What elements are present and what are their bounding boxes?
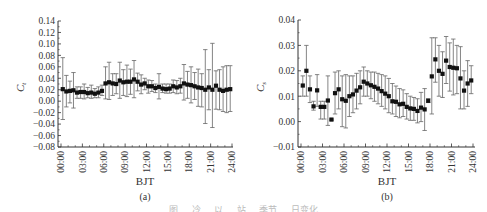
data-point-square [455,66,459,70]
y-axis-label-b: Cs [254,82,268,92]
y-tick-label: −0.06 [33,131,55,141]
data-point-square [351,92,355,96]
y-tick-label: −0.08 [33,142,55,152]
data-point-square [415,109,419,113]
data-point-square [390,99,394,103]
data-point-square [376,86,380,90]
y-tick-label: 0.10 [38,39,55,49]
data-point-square [315,88,319,92]
data-point-square [319,105,323,109]
chart-panel-a: 0.140.120.100.080.060.040.020.00−0.02−0.… [14,16,237,203]
x-tick-label: 03:00 [318,151,328,173]
y-tick-label: 0.04 [278,15,295,25]
errorbars-b [301,37,474,131]
x-axis-label-b: BJT [378,175,397,187]
x-tick-label: 18:00 [425,151,435,173]
data-point-square [394,100,398,104]
figure: 0.140.120.100.080.060.040.020.00−0.02−0.… [0,0,487,212]
y-tick-label: −0.02 [33,108,55,118]
data-point-square [458,76,462,80]
data-point-square [448,65,452,69]
data-point-square [423,107,427,111]
data-point-square [426,99,430,103]
data-point-square [440,72,444,76]
x-tick-label: 15:00 [404,151,414,173]
x-tick-label: 21:00 [447,151,457,173]
data-point-square [358,85,362,89]
x-tick-label: 12:00 [142,151,152,173]
axes-b [298,20,475,147]
data-point-square [451,66,455,70]
data-point-square [301,83,305,87]
data-point-square [372,85,376,89]
y-tick-label: −0.01 [273,142,295,152]
y-tick-label: 0.02 [278,66,295,76]
data-point-square [380,89,384,93]
data-point-square [408,106,412,110]
data-point-square [354,89,358,93]
y-tick-label: 0.01 [278,92,295,102]
data-point-square [333,91,337,95]
data-point-square [322,105,326,109]
data-point-square [430,74,434,78]
x-tick-label: 06:00 [99,151,109,173]
data-point-square [228,87,232,91]
data-point-square [466,81,470,85]
data-point-square [326,98,330,102]
data-point-square [308,87,312,91]
y-tick-label: 0.12 [38,28,55,38]
data-point-square [433,57,437,61]
x-tick-label: 15:00 [163,151,173,173]
y-tick-label: 0.02 [38,85,55,95]
data-points-b [301,57,474,121]
data-point-square [362,80,366,84]
y-axis-label-a: Ct [14,82,28,92]
data-point-square [100,89,104,93]
x-tick-labels-b: 00:0003:0006:0009:0012:0015:0018:0021:00… [296,151,478,173]
data-point-square [210,88,214,92]
y-tick-label: 0.08 [38,51,55,61]
x-tick-label: 12:00 [382,151,392,173]
data-point-square [337,87,341,91]
x-tick-label: 09:00 [361,151,371,173]
x-tick-labels-a: 00:0003:0006:0009:0012:0015:0018:0021:00… [56,151,237,173]
y-tick-labels-a: 0.140.120.100.080.060.040.020.00−0.02−0.… [33,16,55,152]
chart-panel-b: 0.040.030.020.010.00−0.01 00:0003:0006:0… [254,15,478,203]
data-point-square [401,102,405,106]
x-tick-label: 06:00 [339,151,349,173]
data-point-square [311,104,315,108]
x-axis-label-a: BJT [136,175,155,187]
panel-label-b: (b) [381,191,393,203]
x-tick-label: 24:00 [227,151,237,173]
data-point-square [397,102,401,106]
data-point-square [412,107,416,111]
data-point-square [365,81,369,85]
y-tick-labels-b: 0.040.030.020.010.00−0.01 [273,15,295,152]
data-point-square [304,69,308,73]
panel-label-a: (a) [139,191,150,203]
data-point-square [405,105,409,109]
figure-caption: 图 … 冷 … 以 … 站 … 季节 … 日变化 [0,203,487,212]
x-tick-label: 18:00 [184,151,194,173]
data-point-square [469,78,473,82]
y-tick-label: 0.00 [278,117,295,127]
y-tick-label: −0.04 [33,119,55,129]
y-tick-label: 0.14 [38,16,55,26]
x-tick-label: 24:00 [468,151,478,173]
x-tick-label: 21:00 [206,151,216,173]
y-tick-label: 0.03 [278,41,295,51]
data-point-square [340,97,344,101]
data-point-square [383,92,387,96]
data-point-square [344,99,348,103]
x-tick-label: 03:00 [78,151,88,173]
data-point-square [437,69,441,73]
x-tick-label: 09:00 [120,151,130,173]
data-point-square [347,94,351,98]
data-point-square [329,117,333,121]
y-tick-label: 0.06 [38,62,55,72]
data-point-square [387,94,391,98]
x-tick-label: 00:00 [296,151,306,173]
data-point-square [214,84,218,88]
y-tick-label: 0.04 [38,74,55,84]
data-point-square [444,59,448,63]
